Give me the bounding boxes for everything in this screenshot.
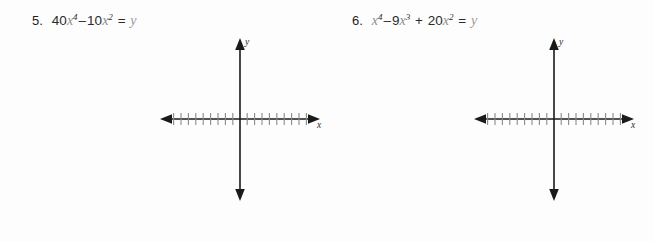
problem-number: 6. [352,13,363,28]
coefficient-3: 20 [428,13,443,28]
y-axis-arrow-down [235,189,245,201]
operator-minus: – [78,13,88,28]
coefficient-2: 10 [87,13,102,28]
operator-minus: – [383,13,393,28]
exponent-1: 4 [73,12,78,22]
x-axis-arrow-left [474,114,486,124]
variable-y: y [471,13,477,28]
y-axis-label: y [244,37,250,47]
equation-6: x4–9x3 + 20x2 = y [372,13,477,28]
x-axis-arrow-left [160,114,172,124]
x-axis-label: x [630,120,636,130]
exponent-2: 2 [108,12,113,22]
equation-5: 40x4–10x2 = y [52,13,137,28]
coordinate-plane-5: x y [152,36,327,204]
y-axis-label: y [558,37,564,47]
exponent-3: 2 [449,12,454,22]
y-axis-arrow-up [235,38,245,50]
operator-plus: + [414,13,424,28]
problem-number: 5. [32,13,43,28]
coordinate-plane-6: x y [466,36,641,204]
problem-5: 5.40x4–10x2 = y [32,14,137,28]
exponent-1: 4 [378,12,383,22]
variable-y: y [130,13,136,28]
y-axis-arrow-down [549,189,559,201]
equals-sign: = [117,13,127,28]
exponent-2: 3 [406,12,411,22]
x-axis-label: x [316,120,322,130]
y-axis-arrow-up [549,38,559,50]
coefficient-1: 40 [52,13,67,28]
coefficient-2: 9 [392,13,400,28]
equals-sign: = [457,13,467,28]
problem-6: 6.x4–9x3 + 20x2 = y [352,14,477,28]
